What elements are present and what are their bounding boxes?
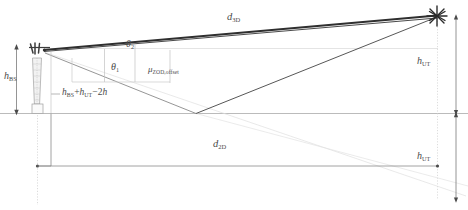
dimension-d-2d bbox=[36, 114, 439, 168]
reflected-ray-incident bbox=[45, 53, 196, 114]
construction-lines bbox=[0, 18, 468, 205]
label-h-ut-lower: hUT bbox=[417, 151, 430, 161]
los-ray-secondary bbox=[44, 18, 437, 52]
angle-construction bbox=[72, 45, 170, 83]
geometry-canvas bbox=[0, 0, 468, 210]
label-mu-zod-offset: μZOD,offset bbox=[148, 65, 179, 74]
label-h-bs: hBS bbox=[4, 71, 17, 81]
label-height-sum: hBS+hUT−2h bbox=[62, 88, 107, 98]
ut-star-marker bbox=[427, 6, 447, 26]
propagation-geometry-diagram: d3D d2D hBS hUT hUT θ2 θ1 μZOD,offset hB… bbox=[0, 0, 468, 210]
dimension-h-ut-upper bbox=[454, 14, 458, 115]
label-h-ut-upper: hUT bbox=[417, 56, 430, 66]
label-theta-1: θ1 bbox=[111, 62, 119, 72]
propagation-rays bbox=[44, 16, 437, 114]
los-ray-d3d bbox=[44, 16, 437, 51]
reflected-ray-departing bbox=[196, 17, 437, 114]
label-d-3d: d3D bbox=[227, 12, 240, 23]
label-theta-2: θ2 bbox=[126, 39, 134, 49]
leader-height-sum bbox=[51, 52, 60, 114]
dimension-h-ut-lower bbox=[454, 112, 458, 203]
label-d-2d: d2D bbox=[213, 139, 226, 150]
